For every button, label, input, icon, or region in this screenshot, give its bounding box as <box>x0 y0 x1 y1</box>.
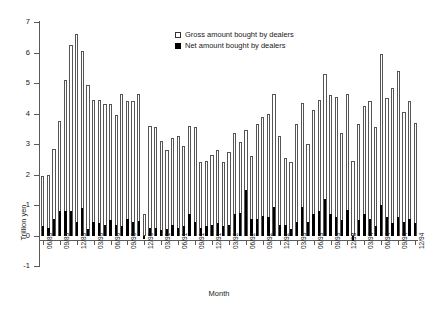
bar-series-group <box>40 22 418 266</box>
gross-bar <box>199 162 202 235</box>
x-tick <box>297 241 298 245</box>
net-bar <box>296 222 298 236</box>
gross-bar <box>120 94 123 236</box>
x-tick-label: 12/90 <box>147 233 154 249</box>
gross-bar <box>86 85 89 236</box>
y-tick <box>34 114 39 115</box>
x-tick-label: 06/89 <box>46 233 53 249</box>
x-tick-label: 12/92 <box>283 233 290 249</box>
y-tick-label: 7 <box>6 18 30 26</box>
x-tick <box>161 241 162 245</box>
gross-bar <box>194 127 197 235</box>
net-bar <box>76 222 78 236</box>
gross-bar <box>374 127 377 235</box>
legend-swatch-gross-icon <box>175 32 181 38</box>
net-bar <box>324 199 326 236</box>
net-bar <box>341 220 343 235</box>
gross-bar <box>103 104 106 235</box>
net-bar <box>126 219 128 236</box>
x-tick <box>229 241 230 245</box>
net-bar <box>211 225 213 236</box>
net-bar <box>222 226 224 235</box>
y-tick <box>34 83 39 84</box>
gross-bar <box>143 214 146 235</box>
x-tick-label: 06/91 <box>181 233 188 249</box>
gross-bar <box>210 155 213 236</box>
x-tick-label: 09/91 <box>198 233 205 249</box>
x-tick-label: 03/92 <box>232 233 239 249</box>
net-bar <box>358 220 360 235</box>
net-bar <box>188 214 190 235</box>
gross-bar <box>171 138 174 236</box>
x-tick-label: 06/92 <box>249 233 256 249</box>
net-bar <box>42 226 44 235</box>
net-bar <box>92 222 94 236</box>
x-tick <box>178 241 179 245</box>
chart-container: Trillion yen 76543210-1 06/8909/8912/890… <box>0 0 438 311</box>
net-bar <box>109 220 111 235</box>
net-bar <box>53 219 55 236</box>
x-tick-label: 12/89 <box>80 233 87 249</box>
gross-bar <box>408 101 411 235</box>
net-bar <box>177 228 179 236</box>
x-tick-label: 06/90 <box>114 233 121 249</box>
y-tick <box>34 144 39 145</box>
gross-bar <box>222 162 225 235</box>
y-tick <box>34 236 39 237</box>
net-bar <box>397 217 399 235</box>
net-bar <box>228 225 230 236</box>
gross-bar <box>295 124 298 235</box>
gross-bar <box>397 71 400 236</box>
net-bar <box>160 230 162 235</box>
net-bar <box>279 225 281 236</box>
legend-swatch-net-icon <box>175 43 181 49</box>
net-bar <box>171 225 173 236</box>
y-tick-label: 5 <box>6 79 30 87</box>
net-bar <box>262 216 264 236</box>
net-bar <box>329 214 331 235</box>
net-bar <box>273 207 275 236</box>
y-tick <box>34 22 39 23</box>
y-tick <box>34 205 39 206</box>
x-tick <box>415 241 416 245</box>
gross-bar <box>154 127 157 235</box>
gross-bar <box>177 136 180 235</box>
net-bar <box>312 214 314 235</box>
x-tick <box>144 241 145 245</box>
x-tick-label: 09/92 <box>266 233 273 249</box>
net-bar <box>414 223 416 235</box>
net-bar <box>194 222 196 236</box>
x-tick <box>314 241 315 245</box>
gross-bar <box>75 34 78 235</box>
net-bar <box>121 226 123 235</box>
x-tick <box>246 241 247 245</box>
gross-bar <box>115 115 118 235</box>
gross-bar <box>131 101 134 235</box>
x-tick-label: 03/91 <box>164 233 171 249</box>
net-bar <box>245 190 247 236</box>
x-tick-label: 03/90 <box>97 233 104 249</box>
y-tick-label: 6 <box>6 49 30 57</box>
gross-bar <box>385 98 388 235</box>
gross-bar <box>402 112 405 236</box>
gross-bar <box>109 104 112 235</box>
gross-bar <box>160 141 163 236</box>
net-bar <box>59 211 61 235</box>
net-bar <box>307 222 309 236</box>
plot-area <box>40 22 418 266</box>
x-tick-label: 12/93 <box>350 233 357 249</box>
y-tick <box>34 53 39 54</box>
net-bar <box>391 223 393 235</box>
gross-bar <box>69 45 72 236</box>
gross-bar <box>278 136 281 235</box>
x-tick <box>364 241 365 245</box>
x-tick <box>195 241 196 245</box>
gross-bar <box>368 101 371 235</box>
net-bar <box>301 207 303 236</box>
y-tick <box>34 266 39 267</box>
y-tick <box>34 175 39 176</box>
x-tick-label: 09/89 <box>63 233 70 249</box>
x-tick-label: 03/93 <box>300 233 307 249</box>
x-tick-label: 09/93 <box>334 233 341 249</box>
net-bar <box>375 226 377 235</box>
